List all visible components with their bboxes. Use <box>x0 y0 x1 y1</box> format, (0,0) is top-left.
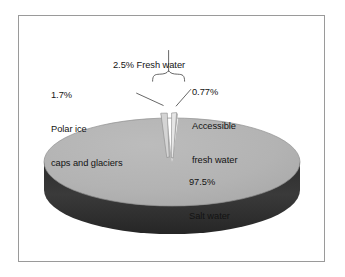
annotation-label-fresh-water-line1: 2.5% Fresh water <box>113 60 185 71</box>
annotation-label-salt-water-line2: Salt water <box>189 211 230 222</box>
annotation-label-accessible-line2: Accessible <box>192 121 237 132</box>
annotation-label-fresh-water: 2.5% Fresh water <box>113 37 185 94</box>
annotation-label-polar-ice: 1.7% Polar ice caps and glaciers <box>51 67 123 192</box>
leader-line-polar-ice <box>137 93 164 105</box>
annotation-label-polar-ice-line1: 1.7% <box>51 90 123 101</box>
annotation-label-polar-ice-line2: Polar ice <box>51 124 123 135</box>
screenshot-root: 2.5% Fresh water 1.7% Polar ice caps and… <box>0 0 345 277</box>
annotation-label-salt-water: 97.5% Salt water <box>189 154 230 245</box>
annotation-label-accessible-line1: 0.77% <box>192 87 237 98</box>
annotation-label-salt-water-line1: 97.5% <box>189 177 230 188</box>
annotation-label-polar-ice-line3: caps and glaciers <box>51 158 123 169</box>
